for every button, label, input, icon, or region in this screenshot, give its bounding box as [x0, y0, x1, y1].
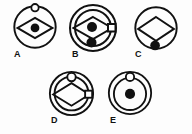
figure-option-e[interactable]: [107, 70, 153, 116]
figure-label-e: E: [110, 116, 116, 125]
top-hollow-circle-marker: [126, 73, 134, 81]
figure-label-c: C: [135, 50, 142, 59]
figure-e-graphic: [107, 70, 153, 116]
figure-b-graphic: [68, 3, 118, 53]
right-small-square-marker: [108, 24, 116, 32]
figure-c-graphic: [133, 5, 179, 51]
center-filled-dot: [125, 89, 135, 99]
diamond-outline: [53, 83, 89, 106]
figure-option-c[interactable]: [133, 5, 179, 51]
figure-option-a[interactable]: [12, 4, 58, 50]
bottom-filled-dot-marker: [150, 41, 160, 51]
diamond-outline: [138, 17, 174, 41]
figure-d-graphic: [48, 70, 95, 117]
figure-label-d: D: [51, 116, 58, 125]
right-small-square-marker: [85, 91, 92, 98]
figure-a-graphic: [12, 4, 58, 50]
figure-label-b: B: [72, 50, 79, 59]
top-hollow-circle-marker: [67, 73, 75, 81]
center-filled-dot: [31, 24, 40, 33]
figure-options-sheet: A B C D: [0, 0, 192, 134]
center-filled-dot: [87, 22, 97, 32]
figure-option-d[interactable]: [48, 70, 95, 117]
figure-option-b[interactable]: [68, 3, 118, 53]
top-hollow-circle-marker: [31, 4, 38, 11]
figure-label-a: A: [14, 50, 21, 59]
bottom-filled-dot-marker: [87, 38, 97, 48]
